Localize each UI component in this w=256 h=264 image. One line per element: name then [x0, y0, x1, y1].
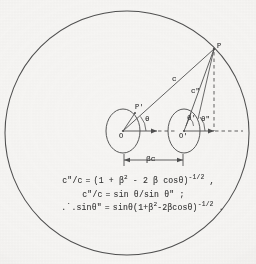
dimension-arrowhead-left	[124, 158, 130, 162]
label-dimension-beta-c: βc	[146, 155, 156, 163]
equation-3-tail: .	[214, 203, 224, 212]
equation-1-tail: ,	[204, 176, 214, 185]
label-point-p: P	[217, 43, 221, 50]
label-segment-c-double-prime: c"	[191, 88, 200, 96]
equation-3-lead: .˙.sinθ"	[61, 203, 102, 212]
figure-canvas: P' O O' P θ θ' θ" c c" βc c"/c=(1 + β2 -…	[0, 0, 256, 264]
point-p-dot	[213, 48, 215, 50]
dimension-arrowhead-right	[177, 158, 183, 162]
label-point-p-prime: P'	[135, 104, 143, 111]
left-axis-arrowhead	[151, 129, 157, 134]
label-point-o: O	[119, 133, 123, 140]
equation-3-rel: =	[105, 203, 110, 212]
label-angle-theta: θ	[145, 116, 150, 124]
equation-3-rhs: sinθ(1+β	[113, 203, 154, 212]
label-point-o-prime: O'	[179, 133, 187, 140]
equation-1-exp2: -1/2	[189, 174, 205, 181]
equation-3-mid: -2βcosθ)	[157, 203, 198, 212]
label-segment-c: c	[172, 76, 177, 84]
diagram-vector-layer	[0, 0, 256, 264]
ray-to-p-from-right-axis	[198, 49, 214, 119]
right-axis-arrowhead	[208, 129, 214, 134]
equation-3-exp2: -1/2	[198, 201, 214, 208]
label-angle-theta-double-prime: θ"	[201, 116, 210, 124]
equation-3: .˙.sinθ"=sinθ(1+β2-2βcosθ)-1/2 .	[41, 196, 224, 221]
label-angle-theta-prime: θ'	[187, 115, 196, 123]
point-p-prime-dot	[134, 112, 136, 114]
